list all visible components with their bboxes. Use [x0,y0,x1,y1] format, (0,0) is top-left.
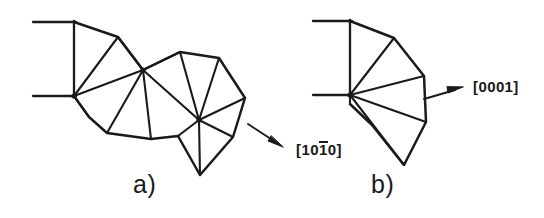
direction-arrow-0001 [424,87,463,99]
spoke-a-10 [199,58,219,120]
panel-a-hub-vertices [71,67,201,122]
spoke-a-12 [199,120,233,137]
figure-drawing-canvas [0,0,544,218]
hub-vertex-b [347,92,352,97]
miller-index-label-0001: [0001] [473,79,519,94]
miller-1010-overbar-digit: 1 [319,142,328,157]
panel-label-a: a) [133,172,156,197]
spoke-a-13 [178,120,199,136]
panel-label-b: b) [371,172,394,197]
miller-1010-suffix: 0] [328,141,342,158]
spoke-a-6 [143,70,151,139]
spoke-a-9 [180,52,199,120]
direction-arrow-1010 [248,124,283,147]
panel-a-reference-lines [33,21,76,97]
spoke-a-14 [199,120,200,175]
spoke-a-5 [107,70,143,133]
outline-polygon-a [74,22,245,175]
direction-arrow-1010-head [268,136,283,147]
panel-a-outline [74,22,245,175]
hub-vertex-a-right [196,117,201,122]
miller-1010-prefix: [10 [296,141,319,158]
panel-a-drawing [33,21,283,175]
hub-vertex-a-left [71,93,76,98]
spoke-b-2 [350,76,424,95]
panel-b-hub-vertices [347,92,352,97]
hub-vertex-a-middle [140,67,145,72]
spoke-a-4 [118,37,143,70]
direction-arrow-0001-head [447,87,463,93]
panel-b-reference-lines [313,20,352,96]
spoke-a-3 [74,96,89,117]
crystallographic-figure: a) b) [1010] [0001] [0,0,544,218]
spoke-a-7 [143,52,180,70]
miller-index-label-1010: [1010] [296,142,342,157]
spoke-a-8 [143,70,199,120]
